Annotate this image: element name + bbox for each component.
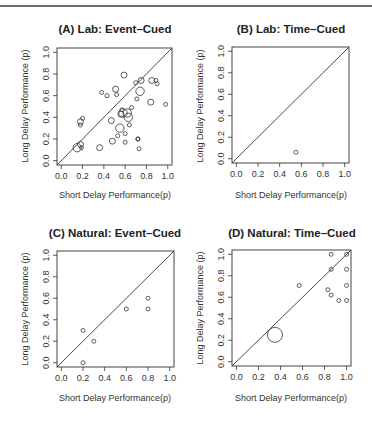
y-tick-label: 0.6: [216, 291, 226, 304]
x-tick-label: 0.4: [273, 169, 286, 179]
y-tick-label: 0.8: [41, 68, 51, 81]
x-tick-label: 0.0: [55, 171, 68, 181]
x-tick-label: 0.0: [230, 372, 243, 382]
x-tick-label: 0.2: [76, 171, 89, 181]
x-tick-label: 0.4: [98, 171, 111, 181]
x-axis-label: Short Delay Performance(p): [59, 393, 171, 403]
x-tick-label: 0.0: [230, 169, 243, 179]
x-tick-label: 1.0: [338, 169, 351, 179]
y-tick-label: 0.0: [216, 152, 226, 165]
x-tick-label: 0.4: [274, 372, 287, 382]
data-point: [136, 87, 144, 95]
y-tick-label: 0.4: [41, 111, 51, 124]
data-point: [297, 283, 301, 287]
identity-line: [57, 48, 172, 165]
data-point: [100, 90, 104, 94]
scatter-plot-a: (A) Lab: Event–Cued 0.00.20.40.60.81.00.…: [0, 0, 186, 212]
y-tick-label: 0.8: [216, 67, 226, 80]
data-point: [345, 283, 349, 287]
panel-title: (D) Natural: Time–Cued: [228, 227, 356, 239]
panel-a: (A) Lab: Event–Cued 0.00.20.40.60.81.00.…: [0, 0, 186, 212]
y-tick-label: 1.0: [41, 249, 51, 262]
data-point: [294, 150, 298, 154]
y-tick-label: 0.8: [216, 270, 226, 283]
x-tick-label: 0.6: [296, 372, 309, 382]
y-tick-label: 0.4: [216, 109, 226, 122]
y-tick-label: 0.8: [41, 271, 51, 284]
x-axis-label: Short Delay Performance(p): [235, 190, 347, 200]
panel-b: (B) Lab: Time–Cued 0.00.20.40.60.81.00.0…: [175, 0, 361, 212]
x-tick-label: 0.8: [317, 169, 330, 179]
data-point: [81, 328, 85, 332]
data-point: [116, 134, 120, 138]
data-point: [115, 93, 119, 97]
x-tick-label: 0.2: [252, 169, 265, 179]
x-axis-label: Short Delay Performance(p): [59, 190, 171, 200]
scatter-plot-d: (D) Natural: Time–Cued 0.00.20.40.60.81.…: [175, 212, 372, 424]
data-point: [134, 81, 138, 85]
data-point: [77, 119, 83, 125]
y-tick-label: 0.0: [41, 154, 51, 167]
y-tick-label: 0.2: [216, 131, 226, 144]
x-tick-label: 0.4: [98, 373, 111, 383]
y-tick-label: 1.0: [216, 45, 226, 58]
y-tick-label: 0.4: [216, 312, 226, 325]
x-axis-label: Short Delay Performance(p): [235, 393, 347, 403]
data-point: [329, 252, 333, 256]
x-tick-label: 1.0: [161, 171, 174, 181]
y-tick-label: 0.0: [41, 356, 51, 369]
x-tick-label: 0.6: [119, 171, 132, 181]
y-tick-label: 0.4: [41, 313, 51, 326]
data-point: [135, 97, 139, 101]
x-tick-label: 1.0: [340, 372, 353, 382]
data-point: [146, 296, 150, 300]
y-tick-label: 0.6: [41, 89, 51, 102]
data-point: [345, 298, 349, 302]
x-tick-label: 0.6: [295, 169, 308, 179]
data-point: [116, 124, 124, 132]
y-axis-label: Long Delay Performance (p): [195, 251, 205, 364]
scatter-plot-b: (B) Lab: Time–Cued 0.00.20.40.60.81.00.0…: [175, 0, 361, 212]
y-tick-label: 0.0: [216, 355, 226, 368]
data-point: [108, 118, 114, 124]
data-point: [113, 86, 119, 92]
y-axis-label: Long Delay Performance (p): [20, 49, 30, 162]
identity-line: [57, 251, 174, 367]
x-tick-label: 0.8: [140, 171, 153, 181]
x-tick-label: 0.2: [252, 372, 265, 382]
data-point: [97, 145, 103, 151]
y-tick-label: 0.6: [41, 292, 51, 305]
data-point: [148, 99, 154, 105]
y-axis-label: Long Delay Performance (p): [195, 49, 205, 162]
data-point: [92, 339, 96, 343]
data-point: [146, 307, 150, 311]
panel-c: (C) Natural: Event–Cued 0.00.20.40.60.81…: [0, 212, 186, 424]
panel-d: (D) Natural: Time–Cued 0.00.20.40.60.81.…: [175, 212, 361, 424]
identity-line: [232, 47, 349, 163]
data-point: [136, 137, 140, 141]
data-point: [345, 267, 349, 271]
data-point: [337, 298, 341, 302]
data-point: [127, 123, 131, 127]
scatter-plot-c: (C) Natural: Event–Cued 0.00.20.40.60.81…: [0, 212, 186, 424]
x-tick-label: 0.6: [120, 373, 133, 383]
x-tick-label: 0.0: [55, 373, 68, 383]
x-tick-label: 0.2: [77, 373, 90, 383]
data-point: [123, 140, 127, 144]
y-tick-label: 1.0: [216, 248, 226, 261]
panel-title: (C) Natural: Event–Cued: [49, 227, 181, 239]
data-point: [121, 72, 127, 78]
data-point: [105, 94, 109, 98]
y-tick-label: 0.2: [41, 133, 51, 146]
data-point: [137, 147, 141, 151]
panel-title: (A) Lab: Event–Cued: [58, 23, 171, 35]
identity-line: [232, 250, 351, 366]
data-point: [164, 102, 168, 106]
data-point: [123, 132, 127, 136]
panel-title: (B) Lab: Time–Cued: [237, 23, 345, 35]
data-point: [329, 293, 333, 297]
y-axis-label: Long Delay Performance (p): [20, 252, 30, 365]
data-point: [130, 106, 134, 110]
x-tick-label: 0.8: [318, 372, 331, 382]
data-point: [138, 78, 144, 84]
